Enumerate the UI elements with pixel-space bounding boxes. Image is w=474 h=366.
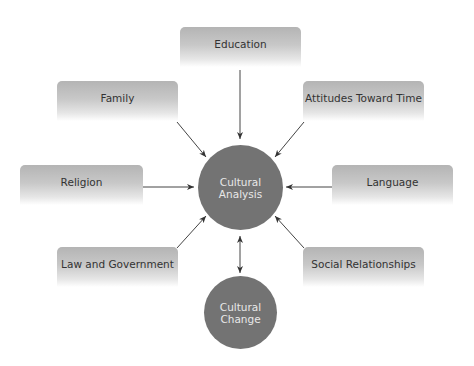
factor-box-social-relationships: Social Relationships [303, 247, 424, 287]
factor-box-education: Education [180, 27, 301, 67]
factor-label: Attitudes Toward Time [305, 92, 422, 104]
node-label-line2: Change [220, 313, 261, 325]
arrow-social [275, 216, 304, 248]
node-label-line1: Cultural [219, 176, 262, 188]
cultural-analysis-node: Cultural Analysis [198, 145, 283, 230]
node-label-line1: Cultural [220, 301, 261, 313]
factor-label: Religion [61, 176, 103, 188]
node-label-line2: Analysis [219, 188, 262, 200]
arrow-attitudes [275, 122, 304, 157]
factor-label: Education [214, 38, 266, 50]
factor-label: Social Relationships [311, 258, 415, 270]
factor-label: Law and Government [61, 258, 174, 270]
factor-box-family: Family [57, 81, 178, 121]
factor-box-language: Language [332, 165, 453, 205]
factor-box-religion: Religion [20, 165, 143, 205]
factor-box-law-and-government: Law and Government [57, 247, 178, 287]
arrow-law [177, 216, 206, 248]
cultural-change-node: Cultural Change [204, 276, 277, 349]
factor-label: Language [367, 176, 419, 188]
factor-box-attitudes-toward-time: Attitudes Toward Time [303, 81, 424, 121]
factor-label: Family [101, 92, 135, 104]
arrow-family [177, 122, 206, 157]
